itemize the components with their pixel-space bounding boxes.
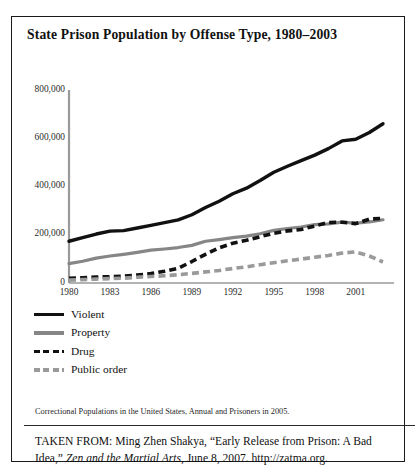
x-tick-label: 1989 xyxy=(172,287,212,297)
legend-label: Violent xyxy=(71,309,104,320)
x-tick-label: 1983 xyxy=(90,287,130,297)
legend-swatch xyxy=(34,364,64,375)
x-tick-label: 1986 xyxy=(131,287,171,297)
chart-plot-area: 0200,000400,000600,000800,000 1980198319… xyxy=(12,57,406,297)
chart-title: State Prison Population by Offense Type,… xyxy=(27,27,387,43)
legend-item-violent: Violent xyxy=(34,305,234,324)
section-divider xyxy=(24,425,415,426)
figure-frame: State Prison Population by Offense Type,… xyxy=(11,16,405,462)
legend-label: Public order xyxy=(71,364,127,375)
y-tick-label: 800,000 xyxy=(7,84,65,94)
legend-swatch xyxy=(34,346,64,357)
legend-item-drug: Drug xyxy=(34,342,234,361)
x-tick-label: 2001 xyxy=(336,287,376,297)
y-tick-label: 600,000 xyxy=(7,132,65,142)
legend-label: Property xyxy=(71,327,110,338)
x-tick-label: 1980 xyxy=(49,287,89,297)
y-tick-label: 400,000 xyxy=(7,180,65,190)
legend-item-public-order: Public order xyxy=(34,361,234,380)
y-tick-label: 200,000 xyxy=(7,228,65,238)
attribution-text: TAKEN FROM: Ming Zhen Shakya, “Early Rel… xyxy=(35,434,395,467)
chart-svg xyxy=(12,57,406,297)
source-note: Correctional Populations in the United S… xyxy=(35,407,385,416)
series-line-property xyxy=(69,220,383,264)
attribution-suffix: , June 8, 2007. http://zatma.org. xyxy=(181,452,328,465)
legend-swatch xyxy=(34,327,64,338)
x-tick-label: 1992 xyxy=(213,287,253,297)
y-tick-label: 0 xyxy=(7,277,65,287)
legend-item-property: Property xyxy=(34,324,234,343)
legend-swatch xyxy=(34,309,64,320)
legend-label: Drug xyxy=(71,346,94,357)
x-tick-label: 1995 xyxy=(254,287,294,297)
x-tick-label: 1998 xyxy=(295,287,335,297)
chart-legend: ViolentPropertyDrugPublic order xyxy=(34,305,234,379)
attribution-italic-title: Zen and the Martial Arts xyxy=(66,452,181,465)
